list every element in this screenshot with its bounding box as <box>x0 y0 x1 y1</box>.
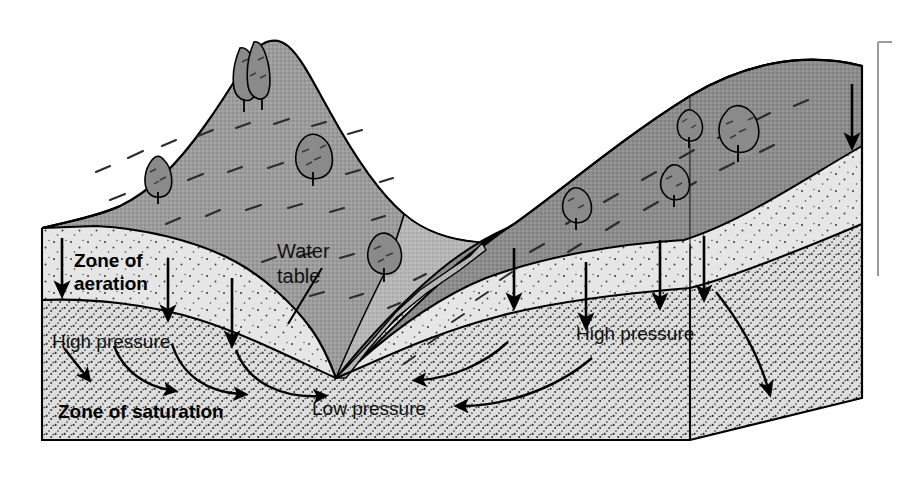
label-high-pressure-right: High pressure <box>576 323 694 344</box>
label-zone-of-saturation: Zone of saturation <box>58 401 224 422</box>
tree-far-left <box>623 171 637 179</box>
figure-canvas: Zone of aeration Water table High pressu… <box>0 0 898 482</box>
groundwater-block-diagram: Zone of aeration Water table High pressu… <box>0 0 898 482</box>
label-low-pressure: Low pressure <box>312 398 426 419</box>
label-water-table-line1: Water <box>277 240 330 262</box>
label-zone-of-aeration-line2: aeration <box>74 273 148 294</box>
label-high-pressure-left: High pressure <box>52 331 170 352</box>
label-zone-of-aeration-line1: Zone of <box>74 250 143 271</box>
margin-rule <box>878 42 892 276</box>
label-water-table-line2: table <box>277 265 320 287</box>
